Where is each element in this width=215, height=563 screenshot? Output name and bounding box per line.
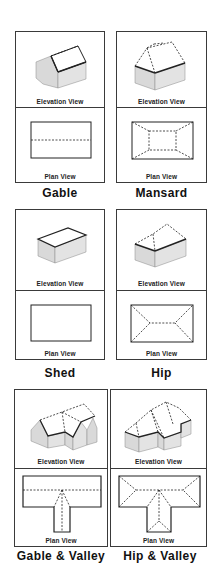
hip-valley-panel: Elevation View Plan View [110,389,207,547]
gable-elevation-drawing [16,32,106,108]
shed-elevation-drawing [16,210,106,286]
plan-view-label: Plan View [15,537,107,544]
hip-valley-elevation-drawing [111,390,208,468]
elevation-view-label: Elevation View [117,98,206,105]
shed-panel: Elevation View Plan View [15,209,105,360]
elevation-view-label: Elevation View [117,280,206,287]
gable-panel: Elevation View Plan View [15,31,105,183]
roof-name-hip-valley: Hip & Valley [105,549,215,563]
elevation-view-label: Elevation View [111,458,206,465]
roof-name-gable: Gable [15,186,105,200]
plan-view-label: Plan View [117,173,206,180]
plan-view-label: Plan View [111,537,206,544]
hip-panel: Elevation View Plan View [116,209,207,360]
plan-view-label: Plan View [16,350,104,357]
gable-valley-elevation-drawing [15,390,109,468]
elevation-view-label: Elevation View [16,280,104,287]
hip-elevation-drawing [117,210,208,286]
roof-name-hip: Hip [116,366,207,380]
mansard-panel: Elevation View Plan View [116,31,207,183]
roof-name-mansard: Mansard [116,186,207,200]
roof-name-gable-valley: Gable & Valley [6,549,116,563]
plan-view-label: Plan View [16,173,104,180]
mansard-elevation-drawing [117,32,208,108]
elevation-view-label: Elevation View [15,458,107,465]
plan-view-label: Plan View [117,350,206,357]
roof-name-shed: Shed [15,366,105,380]
gable-valley-panel: Elevation View Plan View [14,389,108,547]
elevation-view-label: Elevation View [16,98,104,105]
